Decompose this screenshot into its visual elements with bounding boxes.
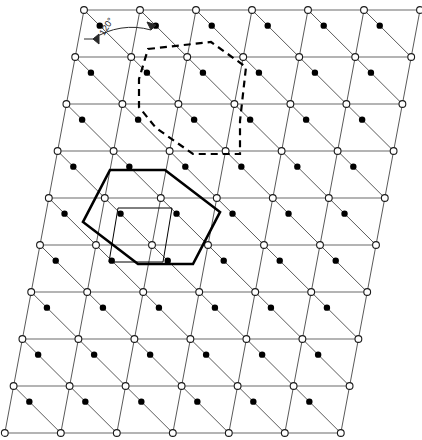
lattice-node [343,101,350,108]
basis-dot [70,163,76,169]
lattice-node [240,54,247,61]
lattice-node [290,383,297,390]
lattice-node [113,430,120,437]
basis-dot [368,69,374,75]
basis-dot [53,257,59,263]
lattice-node [28,289,35,296]
lattice-node [417,7,422,14]
lattice-node [137,7,144,14]
basis-dot [221,257,227,263]
lattice-node [178,383,185,390]
basis-dot [156,304,162,310]
basis-dot [82,398,88,404]
basis-dot [247,116,253,122]
basis-dot [377,22,383,28]
lattice-node [196,289,203,296]
lattice-node [149,242,156,249]
angle-annotation-120: 120° [84,16,156,44]
lattice-node [287,101,294,108]
lattice-line [31,292,173,433]
lattice-node [269,195,276,202]
basis-dot [44,304,50,310]
lattice-node [346,383,353,390]
basis-dot [285,210,291,216]
lattice-node [225,430,232,437]
lattice-line [14,386,61,433]
lattice-node [213,195,220,202]
lattice-node [243,336,250,343]
lattice-node [234,383,241,390]
basis-dot [209,22,215,28]
basis-dot [147,351,153,357]
lattice-node [408,54,415,61]
lattice-node [175,101,182,108]
lattice-node [66,383,73,390]
basis-dot [35,351,41,357]
lattice-node [281,430,288,437]
basis-dot [61,210,67,216]
basis-dot [91,351,97,357]
lattice-node [193,7,200,14]
lattice-line [252,10,394,151]
basis-dot [212,304,218,310]
lattice-grid-lines [5,10,420,433]
basis-dot [135,116,141,122]
basis-dot [294,163,300,169]
lattice-node [361,7,368,14]
lattice-node [63,101,70,108]
basis-dot [238,163,244,169]
basis-dot [315,351,321,357]
lattice-node [84,289,91,296]
basis-dot [306,398,312,404]
basis-dot [250,398,256,404]
lattice-node [10,383,17,390]
lattice-node [261,242,268,249]
basis-dot [359,116,365,122]
basis-dot [79,116,85,122]
basis-dot [203,351,209,357]
lattice-nodes-layer [1,7,422,437]
lattice-node [334,148,341,155]
angle-label-120: 120° [97,16,116,37]
basis-dot [138,398,144,404]
lattice-node [355,336,362,343]
lattice-node [101,195,108,202]
lattice-node [352,54,359,61]
lattice-node [19,336,26,343]
lattice-node [317,242,324,249]
lattice-node [140,289,147,296]
basis-dot [229,210,235,216]
basis-dot [341,210,347,216]
lattice-node [93,242,100,249]
basis-dot [191,116,197,122]
lattice-node [205,242,212,249]
lattice-node [373,242,380,249]
lattice-line [364,10,411,57]
lattice-node [57,430,64,437]
lattice-node [325,195,332,202]
lattice-node [75,336,82,343]
lattice-node [249,7,256,14]
lattice-node [157,195,164,202]
lattice-node [296,54,303,61]
basis-dot [312,69,318,75]
basis-dot [265,22,271,28]
basis-dot [173,210,179,216]
basis-dot [200,69,206,75]
basis-dot [88,69,94,75]
lattice-node [45,195,52,202]
basis-dot [194,398,200,404]
lattice-figure: 120° [0,0,422,440]
lattice-node [231,101,238,108]
lattice-node [308,289,315,296]
lattice-node [184,54,191,61]
lattice-node [122,383,129,390]
basis-dot [259,351,265,357]
basis-dot [277,257,283,263]
lattice-node [110,148,117,155]
lattice-node [131,336,138,343]
basis-dot [268,304,274,310]
lattice-node [72,54,79,61]
lattice-node [119,101,126,108]
basis-dot [303,116,309,122]
